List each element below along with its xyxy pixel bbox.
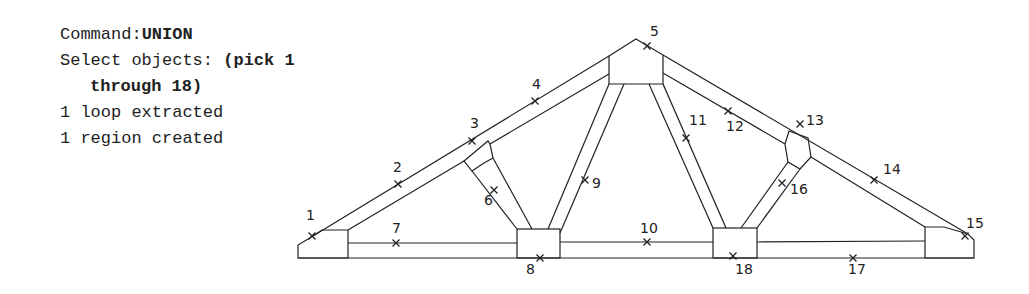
right-long-web-b bbox=[663, 84, 726, 228]
left-top-chord-outer bbox=[313, 56, 609, 236]
pick-label-15: 15 bbox=[966, 215, 984, 231]
pick-label-7: 7 bbox=[392, 220, 401, 236]
pick-marker-1 bbox=[309, 233, 316, 240]
left-top-chord-inner-a bbox=[348, 161, 464, 230]
pick-label-4: 4 bbox=[532, 76, 541, 92]
right-top-chord-inner-a bbox=[663, 73, 785, 144]
pick-label-18: 18 bbox=[735, 261, 753, 277]
pick-label-9: 9 bbox=[592, 175, 601, 191]
pick-label-8: 8 bbox=[526, 261, 535, 277]
pick-label-3: 3 bbox=[470, 115, 479, 131]
pick-label-1: 1 bbox=[306, 207, 315, 223]
left-long-web-b bbox=[560, 84, 624, 233]
pick-marker-5 bbox=[644, 43, 651, 50]
right-long-web-a bbox=[649, 84, 713, 228]
pick-label-5: 5 bbox=[650, 23, 659, 39]
apex-gusset bbox=[609, 39, 663, 84]
left-top-chord-inner-b bbox=[490, 74, 609, 144]
right-short-web-b bbox=[757, 169, 800, 228]
pick-label-14: 14 bbox=[883, 161, 901, 177]
right-top-chord-outer bbox=[663, 55, 968, 234]
pick-label-2: 2 bbox=[393, 159, 402, 175]
left-short-web-b bbox=[493, 158, 532, 229]
pick-label-12: 12 bbox=[726, 118, 744, 134]
pick-label-16: 16 bbox=[790, 181, 808, 197]
right-web-joint bbox=[785, 131, 811, 169]
left-heel-plate bbox=[298, 230, 348, 258]
pick-marker-4 bbox=[532, 98, 539, 105]
left-center-gusset bbox=[517, 229, 560, 258]
left-short-web-a bbox=[472, 171, 517, 229]
truss-diagram: 123456789101112131415161718 bbox=[0, 0, 1029, 294]
pick-marker-13 bbox=[797, 121, 804, 128]
left-long-web-a bbox=[548, 84, 609, 229]
pick-label-10: 10 bbox=[640, 220, 658, 236]
pick-points: 123456789101112131415161718 bbox=[306, 23, 984, 277]
pick-marker-2 bbox=[395, 181, 402, 188]
pick-label-11: 11 bbox=[689, 112, 707, 128]
pick-label-6: 6 bbox=[484, 192, 493, 208]
right-heel-plate bbox=[925, 227, 974, 258]
pick-marker-12 bbox=[725, 108, 732, 115]
left-web-joint bbox=[464, 141, 493, 171]
pick-label-17: 17 bbox=[848, 261, 866, 277]
pick-marker-16 bbox=[779, 180, 786, 187]
right-top-chord-inner-b bbox=[811, 157, 925, 227]
bottom-chord-top-right bbox=[757, 241, 925, 242]
pick-label-13: 13 bbox=[806, 112, 824, 128]
